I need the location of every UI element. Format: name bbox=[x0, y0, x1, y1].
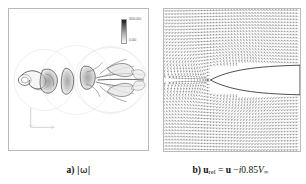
caption-b-label: b) bbox=[192, 165, 200, 175]
caption-b-lhs-subscript: rel bbox=[209, 168, 216, 175]
panel-a-vorticity-plot: 3000.000 0.000 bbox=[8, 8, 149, 151]
caption-a-quantity: |ω| bbox=[77, 165, 91, 175]
vortex-lobe-4 bbox=[80, 62, 102, 97]
vortex-lobe-3 bbox=[61, 68, 73, 94]
two-panel-figure: 3000.000 0.000 a) |ω| b) urel = u −i0.85… bbox=[0, 0, 306, 184]
airfoil-body bbox=[210, 65, 300, 95]
caption-panel-a: a) |ω| bbox=[8, 160, 149, 180]
caption-b-velocity-subscript: ∞ bbox=[264, 168, 269, 175]
colorbar-min-label: 0.000 bbox=[129, 39, 136, 42]
velocity-quiver-canvas bbox=[164, 9, 300, 151]
vortex-lobe-2 bbox=[40, 69, 57, 93]
colorbar-max-label: 3000.000 bbox=[129, 18, 141, 21]
panel-b-velocity-vector-plot bbox=[163, 8, 301, 152]
axis-indicator-marker bbox=[29, 108, 55, 130]
colorbar: 3000.000 0.000 bbox=[121, 18, 149, 46]
caption-b-coefficient: 0.85 bbox=[241, 165, 258, 175]
colorbar-gradient bbox=[121, 19, 127, 44]
caption-panel-b: b) urel = u −i0.85V∞ bbox=[155, 160, 306, 180]
vortex-structures bbox=[18, 59, 145, 101]
